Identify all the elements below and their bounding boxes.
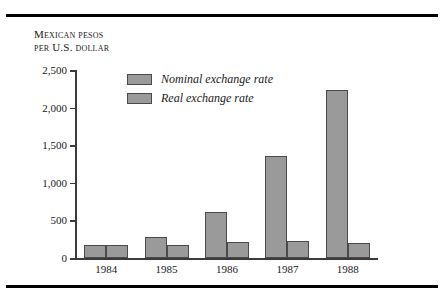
bar xyxy=(326,90,348,258)
bottom-rule xyxy=(6,285,438,288)
y-axis-tick-label: 2,500 xyxy=(42,64,67,76)
bar xyxy=(287,241,309,258)
bar-group: 1988 xyxy=(318,70,378,258)
y-axis-caption-line-1: Mexican pesos xyxy=(34,28,109,41)
y-axis-tick-label: 1,500 xyxy=(42,139,67,151)
bar xyxy=(167,245,189,258)
legend-item: Nominal exchange rate xyxy=(127,71,273,87)
legend-item: Real exchange rate xyxy=(127,90,273,106)
bar xyxy=(84,245,106,258)
legend-swatch xyxy=(127,74,152,85)
chart-legend: Nominal exchange rateReal exchange rate xyxy=(127,71,273,109)
y-axis-tick-label: 2,000 xyxy=(42,102,67,114)
x-axis-tick-label: 1984 xyxy=(76,263,136,275)
x-axis-line xyxy=(75,258,378,260)
y-axis-caption-line-2: per U.S. dollar xyxy=(34,41,109,54)
legend-label: Real exchange rate xyxy=(161,91,254,106)
x-axis-tick-label: 1988 xyxy=(318,263,378,275)
bar xyxy=(348,243,370,258)
figure-container: Mexican pesos per U.S. dollar 05001,0001… xyxy=(0,0,444,302)
y-axis-tick-label: 1,000 xyxy=(42,177,67,189)
bar xyxy=(106,245,128,258)
bar xyxy=(205,212,227,258)
y-axis-tick-label: 0 xyxy=(62,252,68,264)
top-rule xyxy=(6,14,438,17)
x-axis-tick-label: 1986 xyxy=(197,263,257,275)
y-axis-tick xyxy=(70,258,76,260)
legend-label: Nominal exchange rate xyxy=(161,72,273,87)
bar xyxy=(145,237,167,258)
y-axis-tick-label: 500 xyxy=(51,214,68,226)
bar xyxy=(265,156,287,258)
x-axis-tick-label: 1987 xyxy=(257,263,317,275)
x-axis-tick-label: 1985 xyxy=(136,263,196,275)
legend-swatch xyxy=(127,93,152,104)
bar xyxy=(227,242,249,258)
y-axis-caption: Mexican pesos per U.S. dollar xyxy=(34,28,109,54)
